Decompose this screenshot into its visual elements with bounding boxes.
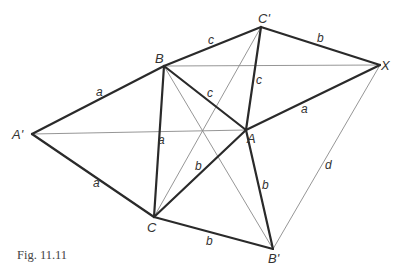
edge-label-c-BCprime: c: [208, 33, 214, 47]
edge-label-b-CBprime: b: [206, 234, 213, 248]
edge-label-b-ABprime: b: [262, 178, 269, 192]
geometry-diagram: A' B C' X A C B' a a a c c c b a b b b d: [0, 0, 407, 278]
edge-C-Bprime: [154, 217, 273, 249]
vertex-label-B: B: [155, 51, 164, 66]
vertex-label-C: C: [147, 220, 157, 235]
thin-line-B-X: [164, 65, 380, 66]
edge-A-X: [246, 65, 380, 130]
thin-line-X-Bprime: [273, 65, 380, 249]
edge-label-c-BA: c: [207, 86, 213, 100]
edge-label-a-BC: a: [158, 133, 165, 147]
thin-line-C-Cprime: [154, 27, 261, 217]
edge-A-Bprime: [246, 130, 273, 249]
edge-label-b-CprimeX: b: [317, 31, 324, 45]
vertex-label-Cprime: C': [258, 11, 270, 26]
edge-label-b-CA: b: [195, 159, 202, 173]
edge-Aprime-B: [32, 66, 164, 134]
vertex-label-X: X: [380, 58, 391, 73]
figure-caption: Fig. 11.11: [17, 248, 67, 263]
edge-label-a-AprimeC: a: [93, 176, 100, 190]
vertex-label-Aprime: A': [11, 127, 24, 142]
edge-C-A: [154, 130, 246, 217]
vertex-label-A: A: [246, 131, 256, 146]
thin-line-Aprime-A: [32, 130, 246, 134]
edge-label-a-AX: a: [301, 102, 308, 116]
edge-label-a-AprimeB: a: [96, 85, 103, 99]
vertex-label-Bprime: B': [268, 251, 280, 266]
edge-label-c-CprimeA: c: [256, 73, 262, 87]
edge-label-d-XBprime: d: [325, 158, 332, 172]
